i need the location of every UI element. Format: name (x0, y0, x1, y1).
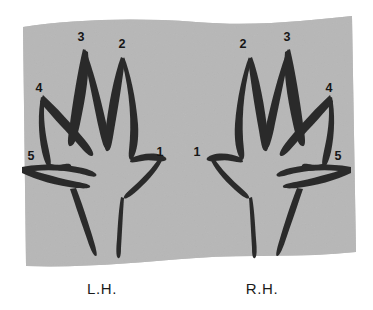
left-hand-finger-label-5: 5 (28, 149, 35, 163)
left-hand-finger-label-2: 2 (119, 37, 126, 51)
right-hand-finger-label-4: 4 (326, 81, 333, 95)
left-hand-finger-label-1: 1 (157, 145, 164, 159)
right-hand-finger-label-2: 2 (240, 37, 247, 51)
right-hand-caption: R.H. (246, 280, 278, 297)
hand-diagram-figure: 1 2 3 4 5 1 2 3 4 5 L.H. R.H. (0, 0, 373, 310)
left-hand-finger-label-3: 3 (78, 30, 85, 44)
left-hand-finger-label-4: 4 (36, 81, 43, 95)
right-hand-finger-label-3: 3 (284, 30, 291, 44)
right-hand-finger-label-5: 5 (335, 149, 342, 163)
left-hand-caption: L.H. (87, 280, 117, 297)
right-hand-finger-label-1: 1 (194, 145, 201, 159)
hand-diagram-svg: 1 2 3 4 5 1 2 3 4 5 L.H. R.H. (0, 0, 373, 310)
